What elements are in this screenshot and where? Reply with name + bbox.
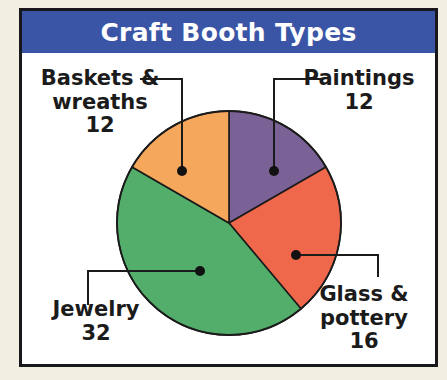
pie-label-baskets-wreaths-line2: wreaths — [32, 91, 168, 115]
pie-label-jewelry-line1: Jewelry — [53, 297, 140, 321]
pie-label-baskets-wreaths-line1: Baskets & — [41, 66, 159, 90]
leader-dot-glass-pottery — [291, 250, 301, 260]
page-title: Craft Booth Types — [100, 18, 356, 47]
pie-label-baskets-wreaths: Baskets & wreaths 12 — [32, 67, 168, 138]
pie-value-baskets-wreaths: 12 — [32, 114, 168, 138]
leader-dot-jewelry — [195, 266, 205, 276]
pie-label-paintings-line1: Paintings — [304, 66, 415, 90]
pie-label-glass-pottery: Glass & pottery 16 — [299, 283, 429, 354]
pie-label-jewelry: Jewelry 32 — [34, 298, 158, 345]
figure-frame: Craft Booth Types — [19, 8, 438, 367]
pie-label-glass-pottery-line1: Glass & — [319, 282, 408, 306]
pie-value-jewelry: 32 — [34, 322, 158, 346]
leader-dot-paintings — [269, 166, 279, 176]
leader-dot-baskets-wreaths — [177, 166, 187, 176]
pie-value-glass-pottery: 16 — [299, 330, 429, 354]
pie-chart-area: Baskets & wreaths 12 Paintings 12 Glass … — [22, 53, 435, 364]
title-bar: Craft Booth Types — [22, 11, 435, 53]
pie-label-glass-pottery-line2: pottery — [299, 307, 429, 331]
pie-label-paintings: Paintings 12 — [289, 67, 429, 114]
figure-page: Craft Booth Types — [0, 0, 447, 380]
pie-value-paintings: 12 — [289, 91, 429, 115]
